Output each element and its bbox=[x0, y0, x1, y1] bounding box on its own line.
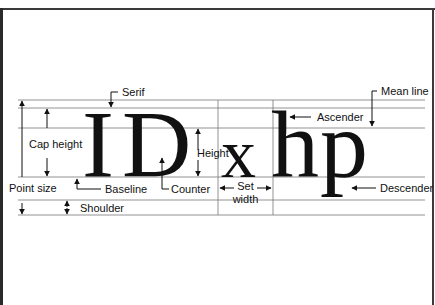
label-descender: Descender bbox=[380, 182, 434, 194]
label-cap-height: Cap height bbox=[29, 138, 82, 150]
specimen: I D x h p bbox=[82, 91, 368, 198]
diagram-frame: I D x h p Point size Cap height Shoulder… bbox=[0, 0, 435, 305]
label-set: Set bbox=[237, 180, 254, 192]
label-width: width bbox=[232, 193, 259, 205]
glyph-I: I bbox=[82, 91, 114, 198]
label-point-size: Point size bbox=[9, 182, 57, 194]
label-serif: Serif bbox=[122, 86, 146, 98]
mean-line-pointer bbox=[372, 91, 377, 126]
label-height: Height bbox=[197, 147, 229, 159]
label-baseline: Baseline bbox=[105, 183, 147, 195]
label-ascender: Ascender bbox=[317, 111, 364, 123]
label-counter: Counter bbox=[171, 183, 210, 195]
label-mean-line: Mean line bbox=[381, 85, 429, 97]
glyph-h: h bbox=[271, 91, 319, 198]
glyph-p: p bbox=[320, 91, 368, 198]
label-shoulder: Shoulder bbox=[80, 202, 124, 214]
type-anatomy-diagram: I D x h p Point size Cap height Shoulder… bbox=[0, 0, 435, 305]
glyph-D: D bbox=[122, 91, 191, 198]
